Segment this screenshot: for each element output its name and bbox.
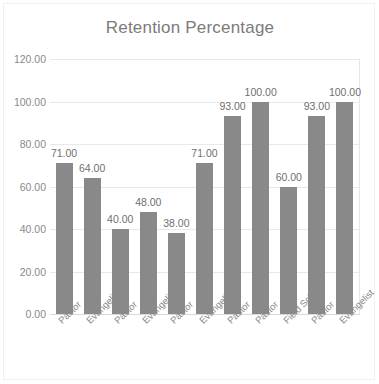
bar-value-label: 40.00: [107, 213, 133, 225]
x-axis-category-labels: PastorEvangelistPastorEvangelistPastorEv…: [50, 318, 359, 378]
bar[interactable]: [196, 163, 213, 314]
bar[interactable]: [252, 102, 269, 315]
bar[interactable]: [56, 163, 73, 314]
y-axis-tick-label: 80.00: [0, 138, 46, 150]
bar-value-label: 38.00: [163, 217, 189, 229]
bar[interactable]: [336, 102, 353, 315]
bar-value-label: 64.00: [79, 162, 105, 174]
bar-value-label: 71.00: [191, 147, 217, 159]
bar-value-label: 60.00: [276, 171, 302, 183]
y-axis-tick-label: 0.00: [0, 308, 46, 320]
bar-value-label: 93.00: [219, 100, 245, 112]
y-axis-tick-label: 100.00: [0, 96, 46, 108]
chart-container: Retention Percentage 71.0064.0040.0048.0…: [3, 3, 375, 380]
bar-value-label: 93.00: [304, 100, 330, 112]
bar[interactable]: [224, 116, 241, 314]
bar[interactable]: [280, 187, 297, 315]
y-axis-tick-label: 120.00: [0, 53, 46, 65]
y-axis-tick-label: 20.00: [0, 266, 46, 278]
bar[interactable]: [140, 212, 157, 314]
bar[interactable]: [84, 178, 101, 314]
plot-area: 71.0064.0040.0048.0038.0071.0093.00100.0…: [50, 59, 360, 314]
bar-value-label: 71.00: [51, 147, 77, 159]
bar-value-label: 48.00: [135, 196, 161, 208]
bar-value-label: 100.00: [245, 86, 277, 98]
gridline: [50, 59, 359, 60]
chart-title: Retention Percentage: [4, 18, 376, 38]
y-axis-tick-label: 60.00: [0, 181, 46, 193]
bar-value-label: 100.00: [329, 86, 361, 98]
y-axis-tick-labels: 0.0020.0040.0060.0080.00100.00120.00: [0, 59, 46, 314]
y-axis-tick-label: 40.00: [0, 223, 46, 235]
